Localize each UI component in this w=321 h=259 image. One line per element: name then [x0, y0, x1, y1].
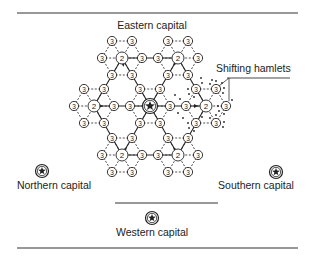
settlement-node: 2 — [116, 52, 128, 64]
settlement-node: 3 — [183, 167, 192, 176]
svg-text:2: 2 — [120, 54, 125, 63]
settlement-node: 3 — [127, 70, 136, 79]
svg-text:3: 3 — [168, 103, 172, 110]
settlement-node: 3 — [163, 133, 172, 142]
svg-text:2: 2 — [176, 54, 181, 63]
settlement-node: 2 — [200, 100, 212, 112]
svg-text:3: 3 — [186, 38, 190, 45]
settlement-node: 2 — [88, 100, 100, 112]
svg-text:3: 3 — [186, 169, 190, 176]
shifting-leader-1 — [219, 78, 229, 86]
settlement-node: 3 — [211, 118, 220, 127]
settlement-node: 3 — [99, 118, 108, 127]
settlement-node: 3 — [137, 150, 146, 159]
svg-text:3: 3 — [110, 72, 114, 79]
network-nodes: 3333332333333233333323333333333332333333… — [69, 36, 230, 176]
settlement-node: 3 — [135, 84, 144, 93]
settlement-node: 3 — [107, 70, 116, 79]
svg-text:3: 3 — [110, 135, 114, 142]
svg-text:3: 3 — [166, 72, 170, 79]
settlement-node: 3 — [109, 101, 118, 110]
svg-text:3: 3 — [100, 55, 104, 62]
settlement-node: 2 — [172, 52, 184, 64]
svg-text:3: 3 — [224, 103, 228, 110]
svg-text:3: 3 — [186, 135, 190, 142]
settlement-node: 3 — [183, 70, 192, 79]
svg-text:3: 3 — [196, 55, 200, 62]
settlement-node: 3 — [183, 133, 192, 142]
svg-text:3: 3 — [196, 152, 200, 159]
settlement-node: 2 — [116, 149, 128, 161]
svg-text:3: 3 — [214, 120, 218, 127]
settlement-node: 3 — [193, 150, 202, 159]
capital-markers — [36, 165, 283, 225]
svg-text:3: 3 — [130, 135, 134, 142]
svg-text:3: 3 — [100, 152, 104, 159]
svg-text:3: 3 — [166, 135, 170, 142]
svg-text:3: 3 — [102, 120, 106, 127]
southern-capital-star-icon — [270, 166, 283, 179]
settlement-node: 3 — [127, 36, 136, 45]
svg-text:3: 3 — [82, 86, 86, 93]
settlement-node: 3 — [155, 118, 164, 127]
svg-text:3: 3 — [166, 169, 170, 176]
northern-capital-label: Northern capital — [17, 180, 91, 191]
settlement-node: 3 — [155, 84, 164, 93]
settlement-node: 3 — [191, 118, 200, 127]
svg-text:3: 3 — [140, 152, 144, 159]
svg-text:3: 3 — [102, 86, 106, 93]
svg-text:3: 3 — [72, 103, 76, 110]
settlement-node: 3 — [69, 101, 78, 110]
settlement-node: 3 — [125, 101, 134, 110]
settlement-diagram: 3333332333333233333323333333333332333333… — [0, 0, 321, 259]
settlement-node: 3 — [193, 53, 202, 62]
southern-capital-label: Southern capital — [218, 180, 294, 191]
svg-text:3: 3 — [194, 86, 198, 93]
svg-text:3: 3 — [130, 38, 134, 45]
settlement-node: 3 — [181, 101, 190, 110]
settlement-node: 3 — [107, 133, 116, 142]
svg-text:3: 3 — [158, 86, 162, 93]
settlement-node: 3 — [107, 167, 116, 176]
settlement-node: 3 — [153, 53, 162, 62]
svg-text:3: 3 — [130, 72, 134, 79]
settlement-node: 3 — [183, 36, 192, 45]
svg-text:3: 3 — [156, 55, 160, 62]
svg-text:3: 3 — [112, 103, 116, 110]
star-capital-node — [143, 99, 158, 114]
settlement-node: 3 — [97, 150, 106, 159]
settlement-node: 3 — [221, 101, 230, 110]
settlement-node: 3 — [137, 53, 146, 62]
svg-text:3: 3 — [184, 103, 188, 110]
svg-text:3: 3 — [82, 120, 86, 127]
settlement-node: 3 — [163, 70, 172, 79]
svg-text:3: 3 — [158, 120, 162, 127]
settlement-node: 3 — [163, 167, 172, 176]
settlement-node: 3 — [79, 84, 88, 93]
settlement-node: 3 — [127, 133, 136, 142]
svg-text:3: 3 — [186, 72, 190, 79]
settlement-node: 3 — [127, 167, 136, 176]
svg-text:2: 2 — [92, 102, 97, 111]
svg-text:2: 2 — [204, 102, 209, 111]
svg-text:2: 2 — [120, 151, 125, 160]
svg-text:2: 2 — [176, 151, 181, 160]
svg-text:3: 3 — [140, 55, 144, 62]
western-capital-label: Western capital — [116, 227, 188, 238]
settlement-node: 3 — [99, 84, 108, 93]
settlement-node: 3 — [191, 84, 200, 93]
svg-text:3: 3 — [138, 120, 142, 127]
settlement-node: 3 — [135, 118, 144, 127]
settlement-node: 2 — [172, 149, 184, 161]
settlement-node: 3 — [165, 101, 174, 110]
svg-text:3: 3 — [214, 86, 218, 93]
settlement-node: 3 — [97, 53, 106, 62]
western-capital-star-icon — [146, 212, 159, 225]
settlement-node: 3 — [153, 150, 162, 159]
svg-text:3: 3 — [130, 169, 134, 176]
settlement-node: 3 — [163, 36, 172, 45]
svg-text:3: 3 — [156, 152, 160, 159]
svg-text:3: 3 — [110, 38, 114, 45]
eastern-capital-label: Eastern capital — [117, 20, 186, 31]
svg-text:3: 3 — [110, 169, 114, 176]
